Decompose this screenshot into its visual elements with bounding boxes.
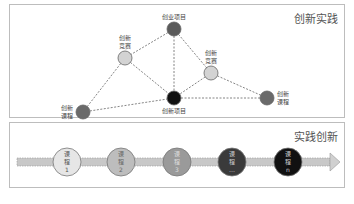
- edge-line: [211, 73, 267, 98]
- course-label: 3: [175, 166, 179, 173]
- node-label: 创新: [205, 49, 217, 57]
- course-label: 程: [174, 158, 180, 166]
- timeline-arrow-head: [330, 153, 340, 171]
- node-label: 竞赛: [119, 42, 131, 50]
- node-label: 竞赛: [205, 57, 217, 65]
- course-label: 2: [119, 166, 123, 173]
- node-label: 创新: [119, 34, 131, 42]
- node-label: 创新: [277, 90, 289, 98]
- node-startup: [167, 22, 181, 36]
- node-course2: [260, 91, 274, 105]
- node-label: 课程: [61, 112, 73, 120]
- course-label: 程: [229, 158, 235, 166]
- course-label: 课: [229, 150, 235, 158]
- node-label: 创新: [61, 104, 73, 112]
- course-label: 课: [285, 150, 291, 158]
- edge-line: [125, 58, 174, 98]
- node-label: 创新项目: [162, 107, 186, 115]
- node-label: 课程: [277, 98, 289, 106]
- node-label: 创业项目: [162, 13, 186, 21]
- course-label: 程: [118, 158, 124, 166]
- node-comp2: [204, 66, 218, 80]
- course-label: 课: [64, 150, 70, 158]
- diagram-canvas: 创业项目创新竞赛创新竞赛创新项目创新课程创新课程课程1课程2课程3课程…课程n: [0, 0, 354, 204]
- edge-line: [83, 58, 125, 112]
- course-label: …: [229, 166, 235, 173]
- course-label: 程: [64, 158, 70, 166]
- node-course1: [76, 105, 90, 119]
- edge-line: [83, 98, 174, 112]
- node-project: [167, 91, 181, 105]
- edge-line: [125, 29, 174, 58]
- course-label: 课: [174, 150, 180, 158]
- course-label: n: [286, 166, 290, 173]
- course-label: 1: [65, 166, 69, 173]
- node-comp1: [118, 51, 132, 65]
- course-label: 课: [118, 150, 124, 158]
- course-label: 程: [285, 158, 291, 166]
